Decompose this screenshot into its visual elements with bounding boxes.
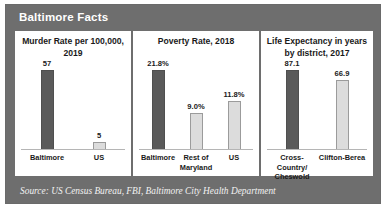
bar-group-life-expectancy: 87.1 66.9 [267, 59, 367, 150]
bar-slot: 87.1 [267, 59, 317, 150]
baltimore-facts-infographic: Baltimore Facts Murder Rate per 100,000,… [5, 4, 381, 204]
bar-value-label: 57 [43, 59, 51, 68]
bar-slot: 11.8% [215, 59, 253, 150]
chart-panels-container: Murder Rate per 100,000, 2019 57 5 Balti… [15, 31, 373, 176]
plot-area-life-expectancy: 87.1 66.9 Cross-Country/ Cheswold Clifto… [265, 59, 369, 176]
chart-panel-poverty-rate: Poverty Rate, 2018 21.8% 9.0% 11.8% [133, 31, 259, 176]
bar [228, 101, 241, 150]
bar-slot: 21.8% [139, 59, 177, 150]
plot-area-poverty-rate: 21.8% 9.0% 11.8% Baltimore Rest of [137, 59, 255, 176]
bar-group-poverty-rate: 21.8% 9.0% 11.8% [139, 59, 253, 150]
bar-value-label: 9.0% [187, 102, 204, 111]
bar-value-label: 87.1 [285, 59, 300, 68]
x-tick-label: Baltimore [139, 153, 177, 176]
bar-slot: 57 [21, 59, 73, 150]
plot-area-murder-rate: 57 5 Baltimore US [19, 59, 127, 176]
source-attribution: Source: US Census Bureau, FBI, Baltimore… [20, 186, 276, 196]
chart-title-poverty-rate: Poverty Rate, 2018 [136, 36, 256, 48]
bar-value-label: 5 [97, 131, 101, 140]
bar [152, 70, 165, 150]
bar-value-label: 21.8% [147, 59, 169, 68]
x-tick-label: Rest of Maryland [177, 153, 215, 176]
bar [286, 70, 299, 150]
bar-slot: 66.9 [317, 59, 367, 150]
chart-title-life-expectancy: Life Expectancy in years by district, 20… [264, 36, 370, 59]
x-axis-tick-labels: Baltimore Rest of Maryland US [139, 150, 253, 176]
chart-panel-murder-rate: Murder Rate per 100,000, 2019 57 5 Balti… [15, 31, 131, 176]
bar [41, 70, 54, 150]
page-title: Baltimore Facts [19, 11, 108, 23]
chart-panel-life-expectancy: Life Expectancy in years by district, 20… [261, 31, 373, 176]
x-tick-label: US [215, 153, 253, 176]
bar [190, 113, 203, 150]
x-axis-tick-labels: Baltimore US [21, 150, 125, 176]
bar-value-label: 66.9 [335, 69, 350, 78]
bar-slot: 5 [73, 59, 125, 150]
bar-value-label: 11.8% [223, 90, 244, 99]
bar-slot: 9.0% [177, 59, 215, 150]
bar [336, 80, 349, 150]
x-axis-tick-labels: Cross-Country/ Cheswold Clifton-Berea [267, 150, 367, 176]
x-tick-label: US [73, 153, 125, 176]
bar-group-murder-rate: 57 5 [21, 59, 125, 150]
x-tick-label: Baltimore [21, 153, 73, 176]
x-tick-label: Cross-Country/ Cheswold [267, 153, 317, 176]
x-tick-label: Clifton-Berea [317, 153, 367, 176]
chart-title-murder-rate: Murder Rate per 100,000, 2019 [18, 36, 128, 59]
